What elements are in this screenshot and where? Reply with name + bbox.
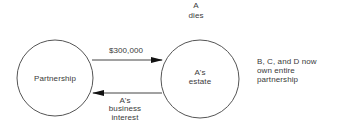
estate-node-label-line2: estate <box>189 77 211 86</box>
partnership-node-label: Partnership <box>34 74 76 83</box>
event-label-line2: dies <box>188 11 203 20</box>
business-interest-label-line3: interest <box>111 113 138 122</box>
ownership-note-line1: B, C, and D now <box>257 57 317 66</box>
payment-amount-label: $300,000 <box>109 46 143 55</box>
ownership-note-line3: partnership <box>257 75 298 84</box>
business-interest-label-line2: business <box>109 104 141 113</box>
estate-node-label-line1: A's <box>194 68 205 77</box>
event-label-line1: A <box>193 1 198 10</box>
ownership-note-line2: own entire <box>257 66 295 75</box>
